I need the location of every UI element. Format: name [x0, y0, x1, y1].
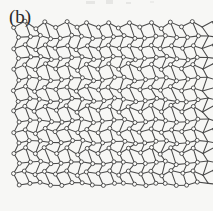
lattice-node — [163, 159, 167, 163]
lattice-node — [196, 117, 200, 121]
lattice-node — [138, 88, 142, 92]
lattice-node — [37, 97, 41, 101]
lattice-node — [44, 62, 48, 66]
lattice-node — [65, 169, 69, 173]
lattice-node — [154, 76, 158, 80]
lattice-node — [60, 120, 64, 124]
lattice-node — [158, 47, 162, 51]
lattice-node — [169, 146, 173, 150]
lattice-node — [133, 58, 137, 62]
lattice-node — [185, 120, 189, 124]
lattice-node — [96, 131, 100, 135]
lattice-node — [59, 78, 63, 82]
lattice-node — [43, 20, 47, 24]
lattice-node — [175, 57, 179, 61]
lattice-node — [33, 68, 37, 72]
lattice-node — [122, 34, 126, 38]
lattice-node — [143, 162, 147, 166]
lattice-node — [169, 63, 173, 67]
lattice-node — [11, 89, 15, 93]
lattice-node — [27, 75, 31, 79]
lattice-node — [28, 118, 32, 122]
lattice-node — [121, 181, 125, 185]
lattice-node — [33, 89, 37, 93]
lattice-node — [59, 161, 63, 165]
lattice-node — [154, 117, 158, 121]
lattice-node — [142, 56, 146, 60]
lattice-node — [80, 55, 84, 59]
lattice-node — [185, 35, 189, 39]
lattice-node — [169, 169, 173, 173]
lattice-node — [179, 25, 183, 29]
lattice-node — [170, 44, 174, 48]
lattice-node — [70, 181, 74, 185]
lattice-node — [85, 146, 89, 150]
lattice-node — [96, 25, 100, 29]
lattice-node — [79, 34, 83, 38]
lattice-node — [191, 63, 195, 67]
lattice-node — [22, 169, 26, 173]
lattice-node — [168, 85, 172, 89]
lattice-node — [117, 110, 121, 114]
lattice-node — [65, 126, 69, 130]
lattice-node — [70, 56, 74, 60]
lattice-node — [100, 119, 104, 123]
lattice-node — [158, 152, 162, 156]
panel-label: (b) — [9, 7, 31, 26]
lattice-node — [144, 120, 148, 124]
lattice-node — [91, 121, 95, 125]
lattice-node — [174, 163, 178, 167]
lattice-node — [24, 146, 28, 150]
lattice-node — [12, 109, 16, 113]
lattice-node — [49, 58, 53, 62]
lattice-node — [101, 183, 105, 187]
lattice-node — [23, 128, 27, 132]
lattice-node — [75, 25, 79, 29]
lattice-node — [76, 131, 80, 135]
lattice-node — [186, 58, 190, 62]
lattice-node — [127, 127, 131, 131]
lattice-node — [91, 141, 95, 145]
lattice-node — [49, 183, 53, 187]
lattice-node — [53, 172, 57, 176]
lattice-node — [43, 86, 47, 90]
lattice-node — [66, 44, 70, 48]
lattice-node — [59, 141, 63, 145]
lattice-node — [32, 109, 36, 113]
lattice-node — [23, 104, 27, 108]
lattice-node — [54, 25, 58, 29]
lattice-node — [85, 44, 89, 48]
lattice-node — [69, 76, 73, 80]
lattice-node — [107, 21, 111, 25]
lattice-node — [92, 99, 96, 103]
lattice-node — [191, 44, 195, 48]
lattice-node — [12, 131, 16, 135]
lattice-node — [195, 160, 199, 164]
lattice-node — [118, 89, 122, 93]
lattice-node — [24, 84, 28, 88]
lattice-node — [164, 139, 168, 143]
lattice-node — [137, 130, 141, 134]
lattice-node — [54, 108, 58, 112]
lattice-node — [92, 57, 96, 61]
lattice-node — [175, 142, 179, 146]
lattice-node — [150, 21, 154, 25]
lattice-node — [196, 98, 200, 102]
lattice-node — [138, 110, 142, 114]
lattice-node — [84, 170, 88, 174]
lattice-node — [174, 183, 178, 187]
lattice-node — [80, 76, 84, 80]
lattice-node — [107, 43, 111, 47]
lattice-node — [29, 55, 33, 59]
lattice-node — [185, 183, 189, 187]
lattice-node — [154, 181, 158, 185]
lattice-node — [100, 78, 104, 82]
lattice-node — [133, 182, 137, 186]
lattice-node — [149, 103, 153, 107]
atom-node-layer — [11, 19, 200, 187]
lattice-node — [133, 162, 137, 166]
lattice-node — [34, 48, 38, 52]
lattice-node — [49, 37, 53, 41]
lattice-node — [43, 169, 47, 173]
lattice-node — [134, 100, 138, 104]
